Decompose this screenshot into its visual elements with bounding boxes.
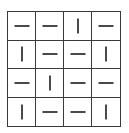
grid-cell-r1-c3[interactable] <box>92 41 120 70</box>
horizontal-line-icon <box>70 82 85 84</box>
horizontal-line-icon <box>42 111 57 113</box>
grid-cell-r3-c0[interactable] <box>8 98 36 127</box>
grid-cell-r2-c0[interactable] <box>8 69 36 98</box>
grid-cell-r3-c2[interactable] <box>64 98 92 127</box>
vertical-line-icon <box>105 47 107 62</box>
grid-cell-r2-c1[interactable] <box>36 69 64 98</box>
grid-cell-r1-c0[interactable] <box>8 41 36 70</box>
horizontal-line-icon <box>99 82 114 84</box>
vertical-line-icon <box>21 104 23 119</box>
grid-cell-r0-c1[interactable] <box>36 12 64 41</box>
vertical-line-icon <box>77 18 79 33</box>
vertical-line-icon <box>21 47 23 62</box>
horizontal-line-icon <box>14 82 29 84</box>
horizontal-line-icon <box>42 25 57 27</box>
horizontal-line-icon <box>42 53 57 55</box>
horizontal-line-icon <box>70 111 85 113</box>
grid-cell-r3-c1[interactable] <box>36 98 64 127</box>
grid-cell-r0-c0[interactable] <box>8 12 36 41</box>
grid-cell-r2-c3[interactable] <box>92 69 120 98</box>
game-board <box>7 11 121 127</box>
horizontal-line-icon <box>99 25 114 27</box>
grid-cell-r1-c1[interactable] <box>36 41 64 70</box>
grid-cell-r3-c3[interactable] <box>92 98 120 127</box>
vertical-line-icon <box>105 104 107 119</box>
grid-cell-r1-c2[interactable] <box>64 41 92 70</box>
vertical-line-icon <box>49 75 51 90</box>
grid-cell-r0-c3[interactable] <box>92 12 120 41</box>
grid-cell-r0-c2[interactable] <box>64 12 92 41</box>
grid-cell-r2-c2[interactable] <box>64 69 92 98</box>
horizontal-line-icon <box>70 53 85 55</box>
horizontal-line-icon <box>14 25 29 27</box>
